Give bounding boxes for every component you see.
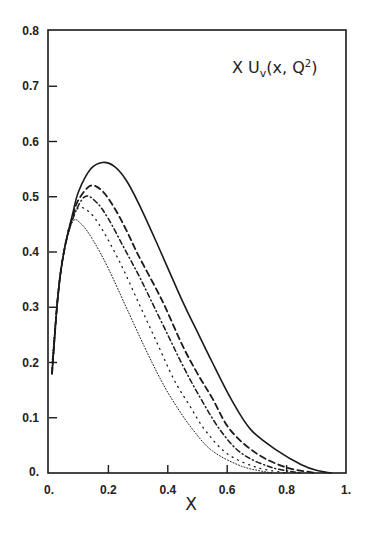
x-tick-label: 0.6 <box>219 483 236 497</box>
y-tick-label: 0.3 <box>22 300 39 314</box>
curve-sparse-dotted <box>52 207 287 473</box>
y-tick-label: 0.4 <box>22 245 39 259</box>
y-tick-label: 0.1 <box>22 411 39 425</box>
axis-ticks <box>49 86 287 473</box>
x-axis-label: X <box>185 494 197 514</box>
curve-dashed <box>52 185 316 473</box>
chart-title: X Uv(x, Q2) <box>232 58 317 80</box>
x-tick-label: 0. <box>44 483 54 497</box>
x-tick-label: 1. <box>341 483 351 497</box>
y-tick-label: 0.6 <box>22 135 39 149</box>
axis-tick-labels: 0.0.20.40.60.81.0.0.10.20.30.40.50.60.70… <box>22 24 351 497</box>
y-tick-label: 0. <box>29 465 39 479</box>
y-tick-label: 0.7 <box>22 79 39 93</box>
x-tick-label: 0.2 <box>100 483 117 497</box>
curve-solid <box>52 162 331 473</box>
plot-frame <box>48 30 346 473</box>
y-tick-label: 0.8 <box>22 24 39 38</box>
x-tick-label: 0.8 <box>278 483 295 497</box>
x-tick-label: 0.4 <box>159 483 176 497</box>
y-tick-label: 0.2 <box>22 356 39 370</box>
chart: 0.0.20.40.60.81.0.0.10.20.30.40.50.60.70… <box>0 0 368 538</box>
curves <box>52 162 331 473</box>
y-tick-label: 0.5 <box>22 190 39 204</box>
curve-fine-dotted <box>52 220 272 473</box>
